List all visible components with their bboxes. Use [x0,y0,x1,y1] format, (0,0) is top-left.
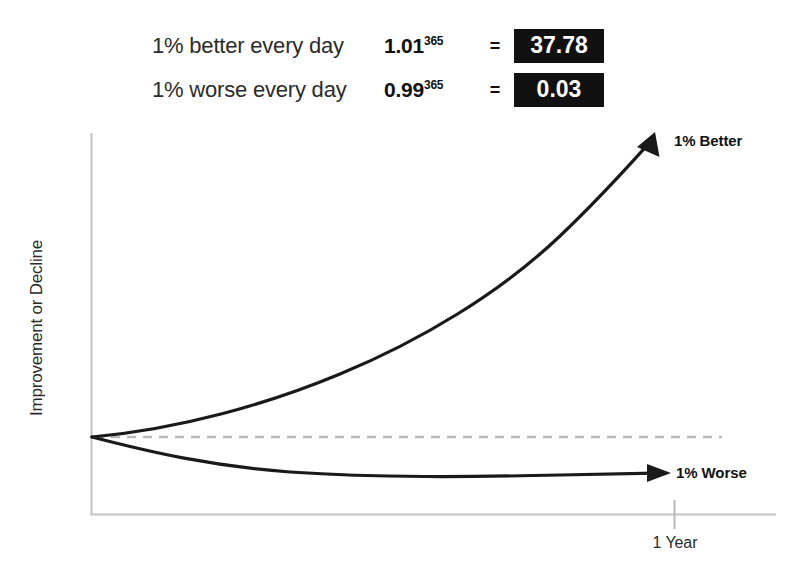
curve-one-percent-better [92,141,651,437]
chart-canvas [0,0,800,586]
y-axis-label: Improvement or Decline [27,213,47,443]
compounding-chart: Improvement or Decline 1% Better 1% Wors… [0,0,800,586]
arrowhead-one-percent-worse [647,464,671,482]
curve-one-percent-worse [92,437,655,477]
curve-label-one-percent-better: 1% Better [674,132,742,149]
x-axis-tick-label-one-year: 1 Year [641,534,709,552]
curve-label-one-percent-worse: 1% Worse [676,464,747,481]
